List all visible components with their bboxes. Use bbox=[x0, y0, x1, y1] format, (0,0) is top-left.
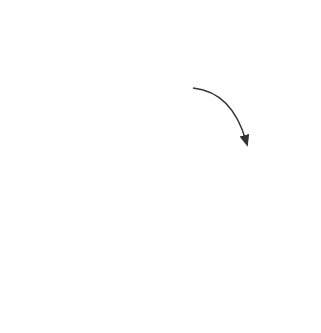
angle-arc-arrow bbox=[193, 88, 246, 141]
diagram-canvas bbox=[0, 0, 321, 333]
stress-diagram bbox=[0, 0, 321, 333]
